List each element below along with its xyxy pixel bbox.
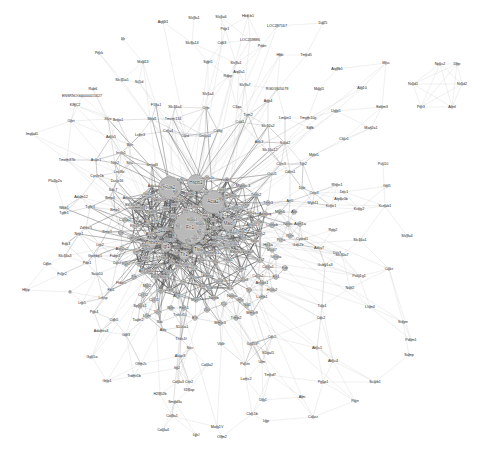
node-label: Cd68 (244, 249, 255, 254)
network-graph-svg: LlrPnckMed13Slc35a5Sc5dRab6ENSRNOG000000… (0, 0, 479, 458)
node-label: Sukd2 (280, 141, 290, 145)
node-label: F13a1 (151, 103, 161, 107)
graph-edge (323, 382, 355, 401)
node-label: Kcnj2 (158, 184, 169, 189)
graph-edge (413, 84, 452, 107)
node-label: Lamb1 (256, 295, 267, 299)
node-label: Cort (68, 119, 75, 123)
graph-edge (272, 290, 322, 306)
node-label: Slc30a7 (335, 253, 348, 257)
node-label: Itg2 (174, 366, 180, 370)
node-label: Ttn (131, 274, 138, 279)
node-label: Bmp4 (105, 196, 115, 200)
node-label: Myh7 (191, 297, 202, 302)
graph-edge (32, 134, 67, 160)
node-label: Nrp2 (111, 161, 119, 165)
node-label: Itga5 (182, 208, 190, 212)
node-label: Rock1 (165, 238, 175, 242)
node-label: Pign (351, 399, 358, 403)
graph-edge (26, 290, 70, 292)
node-label: Pnck (95, 51, 103, 55)
node-label: Ifng (237, 297, 245, 302)
node-label: Tlr2 (180, 252, 188, 257)
node-label: Ccr2 (256, 257, 265, 262)
graph-edge (26, 274, 62, 290)
graph-edge (317, 348, 323, 382)
node-label: Rhen1 (332, 183, 343, 187)
graph-edge (321, 318, 333, 361)
node-label: Olfm2c (135, 362, 147, 366)
node-label: Slc12a2 (261, 124, 274, 128)
graph-edge (122, 80, 196, 183)
node-label: Ryr2 (122, 261, 131, 266)
node-label: Nnp1 (75, 232, 84, 236)
node-label: Atp8b1 (331, 67, 343, 71)
node-label: Gpx1 (217, 187, 228, 192)
node-label: Prelp (145, 247, 154, 251)
graph-edge (323, 361, 333, 382)
graph-edge (26, 264, 47, 290)
node-label: Lrhsp (98, 296, 107, 300)
graph-edge (440, 64, 452, 107)
node-label: Lep (243, 202, 251, 207)
node-label: Myh6 (275, 209, 286, 214)
node-label: Fkbp5 (116, 281, 126, 285)
node-label: Clec1b (246, 412, 257, 416)
node-label: Myl2 (143, 283, 152, 288)
node-label: Pla2g2a (48, 179, 62, 183)
node-label: Npas2 (435, 62, 446, 66)
node-label: Cxcl2 (138, 292, 149, 297)
node-label: Slc16a1 (353, 238, 366, 242)
node-label: Nfe2l2 (172, 196, 185, 201)
node-label: Spp1 (168, 213, 178, 218)
node-label: Fabp4 (110, 254, 120, 258)
node-label: Eln (192, 315, 199, 320)
node-label: Smpd3a (168, 400, 183, 404)
node-label: Clcn3 (276, 162, 285, 166)
node-label: Nid1 (243, 303, 251, 307)
node-label: Sod2 (185, 191, 195, 196)
node-label: Sele (210, 225, 219, 230)
graph-edge (306, 23, 323, 55)
node-label: Lmain1 (279, 116, 291, 120)
node-label: Atp2a1 (233, 70, 245, 74)
node-label: Tgr2 (299, 162, 307, 166)
graph-edge (421, 84, 462, 107)
node-label: Itgav (192, 205, 200, 209)
graph-edge (163, 22, 192, 43)
node-label: LOC287167 (267, 24, 287, 28)
node-label: Grip1 (102, 379, 111, 383)
network-figure: LlrPnckMed13Slc35a5Sc5dRab6ENSRNOG000000… (0, 0, 479, 458)
node-label: Thbs1f (175, 337, 187, 341)
node-label: Cdc2 (317, 316, 326, 320)
graph-edge (225, 29, 236, 63)
graph-edge (322, 306, 333, 361)
graph-edge (205, 108, 206, 136)
node-label: Magl1 (314, 87, 324, 91)
graph-edge (180, 356, 189, 382)
node-label: Gel1 (383, 184, 391, 188)
node-label: Pola1g1 (352, 274, 366, 278)
graph-edge (92, 331, 101, 357)
node-label: Bega1 (113, 118, 124, 122)
node-label: Itgb5 (171, 203, 179, 207)
node-label: Cysltr1b (90, 174, 104, 178)
node-label: Slc1a4 (202, 92, 213, 96)
graph-edge (322, 265, 325, 306)
node-label: Mapk3 (195, 222, 206, 226)
node-label: Egr1 (151, 275, 159, 279)
graph-edge (362, 63, 386, 88)
node-label: Cebpb (266, 222, 279, 227)
node-label: Slc6a6 (215, 15, 226, 19)
node-label: Angpt1 (256, 280, 270, 285)
graph-edge (285, 143, 290, 172)
node-label: Ckar1 (339, 137, 349, 141)
node-label: Slc8a3 (125, 202, 138, 207)
graph-edge (266, 417, 313, 421)
node-label: Gdf3 (122, 333, 130, 337)
node-label: Agt (291, 209, 298, 214)
graph-edge (336, 107, 382, 111)
node-label: Flt1 (273, 274, 281, 279)
node-label: Fbln5 (209, 242, 218, 246)
node-label: Krt18 (130, 223, 141, 228)
